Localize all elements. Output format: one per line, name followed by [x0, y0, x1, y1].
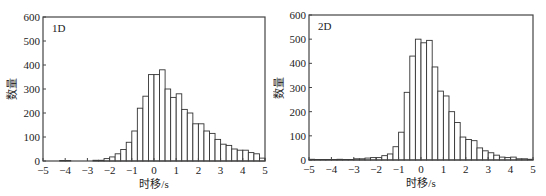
x-tick-label: −5	[37, 164, 49, 176]
panel-label: 1D	[52, 22, 66, 34]
histogram-bar	[176, 94, 182, 161]
histogram-bar	[393, 147, 399, 160]
histogram-2d: 0100200300400500600−5−4−3−2−10123452D时移/…	[273, 0, 546, 196]
x-tick-label: 4	[240, 164, 246, 176]
y-tick-label: 200	[24, 107, 41, 119]
x-tick-label: −4	[326, 163, 338, 175]
x-axis-label: 时移/s	[139, 178, 168, 190]
histogram-bar	[399, 132, 405, 160]
histogram-bar	[137, 108, 143, 161]
histogram-bar	[143, 96, 149, 161]
x-tick-label: −2	[104, 164, 116, 176]
histogram-bar	[449, 112, 455, 160]
histogram-bar	[248, 153, 254, 161]
histogram-bar	[254, 154, 260, 161]
histogram-bar	[110, 157, 116, 161]
histogram-bar	[171, 97, 177, 161]
x-tick-label: −4	[59, 164, 71, 176]
x-tick-label: 3	[218, 164, 224, 176]
histogram-1d: 0100200300400500600−5−4−3−2−10123451D时移/…	[0, 0, 273, 196]
histogram-bar	[477, 148, 483, 160]
histogram-bar	[121, 149, 127, 161]
histogram-bar	[421, 43, 427, 160]
histogram-bar	[415, 39, 421, 160]
y-tick-label: 400	[290, 57, 307, 69]
x-tick-label: −3	[348, 163, 360, 175]
histogram-bar	[483, 151, 489, 160]
panel-label: 2D	[318, 20, 332, 32]
histogram-bar	[115, 154, 121, 161]
y-tick-label: 600	[290, 9, 307, 21]
histogram-bar	[237, 150, 243, 161]
histogram-bar	[165, 89, 171, 161]
histogram-bar	[182, 109, 188, 161]
histogram-bar	[460, 137, 466, 160]
histogram-bar	[232, 149, 238, 161]
histogram-bar	[215, 139, 221, 161]
bars	[60, 70, 265, 161]
x-tick-label: 0	[151, 164, 157, 176]
histogram-2d-plot: 0100200300400500600−5−4−3−2−10123452D时移/…	[273, 0, 546, 196]
histogram-bar	[226, 145, 232, 161]
x-tick-label: 1	[173, 164, 179, 176]
y-tick-label: 200	[290, 106, 307, 118]
histogram-bar	[494, 155, 500, 160]
histogram-bar	[382, 156, 388, 160]
x-tick-label: −3	[82, 164, 94, 176]
x-tick-label: 4	[508, 163, 514, 175]
x-tick-label: −1	[393, 163, 405, 175]
histogram-bar	[471, 141, 477, 160]
x-tick-label: 1	[441, 163, 447, 175]
x-tick-label: 0	[418, 163, 424, 175]
x-tick-label: −1	[126, 164, 138, 176]
x-tick-label: 2	[196, 164, 202, 176]
y-tick-label: 100	[24, 131, 41, 143]
y-tick-label: 600	[24, 11, 41, 23]
y-tick-label: 300	[24, 83, 41, 95]
y-axis-label: 数量	[6, 78, 18, 100]
histogram-1d-plot: 0100200300400500600−5−4−3−2−10123451D时移/…	[0, 0, 273, 196]
histogram-bar	[210, 133, 216, 161]
histogram-bar	[204, 131, 210, 161]
histogram-bar	[488, 153, 494, 160]
y-tick-label: 300	[290, 82, 307, 94]
x-tick-label: 3	[485, 163, 491, 175]
x-axis-label: 时移/s	[406, 177, 435, 189]
histogram-bar	[404, 92, 410, 160]
histogram-bar	[438, 91, 444, 160]
histogram-bar	[387, 154, 393, 160]
histogram-bar	[198, 124, 204, 161]
histogram-bar	[410, 56, 416, 160]
histogram-bar	[243, 150, 249, 161]
histogram-bar	[148, 75, 154, 161]
x-tick-label: 2	[463, 163, 469, 175]
histogram-bar	[187, 113, 193, 161]
y-tick-label: 500	[24, 35, 41, 47]
histogram-bar	[132, 131, 138, 161]
histogram-bar	[466, 139, 472, 160]
histogram-bar	[221, 144, 227, 161]
bars	[309, 39, 533, 160]
x-tick-label: 5	[530, 163, 536, 175]
histogram-bar	[427, 40, 433, 160]
x-tick-label: −2	[370, 163, 382, 175]
histogram-bar	[443, 96, 449, 160]
y-axis-label: 数量	[273, 77, 285, 99]
y-tick-label: 100	[290, 130, 307, 142]
x-tick-label: −5	[303, 163, 315, 175]
histogram-bar	[193, 124, 199, 161]
histogram-bar	[126, 142, 132, 161]
histogram-bar	[455, 123, 461, 160]
y-tick-label: 500	[290, 33, 307, 45]
x-tick-label: 5	[262, 164, 268, 176]
histogram-bar	[154, 75, 160, 161]
histogram-bar	[432, 67, 438, 160]
y-tick-label: 400	[24, 59, 41, 71]
histogram-bar	[160, 70, 166, 161]
